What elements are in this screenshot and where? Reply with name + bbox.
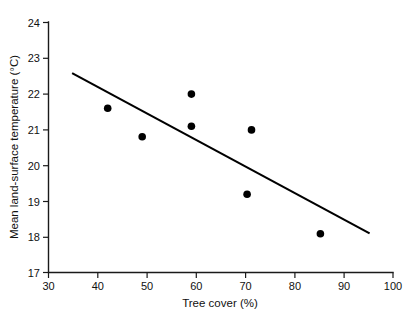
data-point — [138, 133, 146, 141]
chart-canvas: 24 23 22 21 20 19 18 17 30 40 50 60 70 — [0, 0, 414, 317]
data-point — [243, 191, 251, 199]
y-tick-label-20: 20 — [28, 160, 40, 172]
x-tick-label-80: 80 — [289, 280, 301, 292]
x-axis-title: Tree cover (%) — [182, 297, 258, 309]
x-tick-label-30: 30 — [42, 280, 54, 292]
y-tick-label-18: 18 — [28, 231, 40, 243]
trend-line — [72, 73, 370, 233]
data-point — [248, 126, 256, 134]
x-tick-label-100: 100 — [384, 280, 402, 292]
data-points-group — [104, 90, 324, 237]
data-point — [317, 230, 325, 238]
y-tick-label-17: 17 — [28, 267, 40, 279]
y-axis-ticks — [43, 23, 49, 273]
x-axis-tick-labels: 30 40 50 60 70 80 90 100 — [42, 280, 402, 292]
x-tick-label-40: 40 — [92, 280, 104, 292]
data-point — [188, 90, 196, 98]
x-tick-label-60: 60 — [190, 280, 202, 292]
x-tick-label-50: 50 — [141, 280, 153, 292]
x-tick-label-70: 70 — [239, 280, 251, 292]
y-axis-tick-labels: 24 23 22 21 20 19 18 17 — [28, 17, 40, 279]
y-axis-title: Mean land-surface temperature (°C) — [8, 55, 20, 239]
axis-frame — [49, 22, 394, 273]
data-point — [104, 104, 112, 112]
y-tick-label-24: 24 — [28, 17, 40, 29]
data-point — [188, 123, 196, 131]
y-tick-label-22: 22 — [28, 88, 40, 100]
y-tick-label-23: 23 — [28, 52, 40, 64]
x-axis-ticks — [49, 273, 394, 279]
axes-group — [49, 22, 394, 273]
y-tick-label-21: 21 — [28, 124, 40, 136]
scatter-plot-figure: 24 23 22 21 20 19 18 17 30 40 50 60 70 — [0, 0, 414, 317]
x-tick-label-90: 90 — [338, 280, 350, 292]
y-tick-label-19: 19 — [28, 196, 40, 208]
